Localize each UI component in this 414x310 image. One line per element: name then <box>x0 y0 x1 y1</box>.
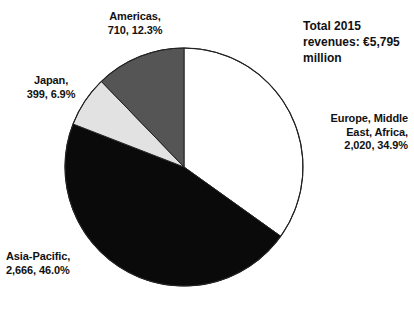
chart-title: Total 2015 revenues: €5,795 million <box>303 18 411 66</box>
slice-label-europe-middle-east-africa: Europe, Middle East, Africa, 2,020, 34.9… <box>300 112 408 153</box>
pie-chart-figure: Americas, 710, 12.3% Japan, 399, 6.9% Eu… <box>0 0 414 310</box>
slice-label-asia-pacific: Asia-Pacific, 2,666, 46.0% <box>6 250 114 277</box>
slice-label-japan: Japan, 399, 6.9% <box>8 74 94 101</box>
slice-label-americas: Americas, 710, 12.3% <box>83 10 187 37</box>
